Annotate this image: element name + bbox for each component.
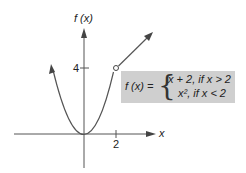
x-axis-arrow-icon <box>146 131 156 137</box>
function-label: f (x) = <box>125 80 153 92</box>
open-circle-point <box>114 66 119 71</box>
y-tick-label: 4 <box>73 62 79 74</box>
case-2: x², if x < 2 <box>178 87 226 99</box>
x-tick-label: 2 <box>113 138 119 150</box>
parabola-curve <box>53 70 114 135</box>
y-axis-label: f (x) <box>74 12 93 24</box>
piecewise-definition-box: f (x) = { x + 2, if x > 2 x², if x < 2 <box>121 71 235 103</box>
y-axis-arrow-icon <box>81 28 87 38</box>
case-1: x + 2, if x > 2 <box>168 73 231 85</box>
linear-ray <box>119 37 149 66</box>
x-axis-label: x <box>159 127 165 139</box>
